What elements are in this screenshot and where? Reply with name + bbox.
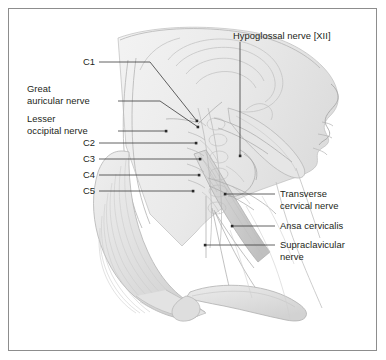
leader-great-auricular (118, 101, 198, 127)
label-lesser-occipital-nerve: Lesser occipital nerve (27, 113, 119, 136)
label-c5: C5 (44, 185, 95, 197)
anatomical-figure: Hypoglossal nerve [XII] C1 Great auricul… (0, 0, 386, 360)
label-supraclavicular-nerve: Supraclavicular nerve (280, 239, 380, 262)
label-hypoglossal-nerve: Hypoglossal nerve [XII] (233, 30, 331, 42)
label-transverse-cervical-nerve: Transverse cervical nerve (280, 188, 380, 211)
leader-endpoint-dots (165, 120, 242, 247)
label-c3: C3 (44, 153, 95, 165)
label-c2: C2 (44, 137, 95, 149)
label-c1: C1 (44, 56, 95, 68)
label-ansa-cervicalis: Ansa cervicalis (280, 220, 380, 232)
label-great-auricular-nerve: Great auricular nerve (27, 83, 119, 106)
label-c4: C4 (44, 169, 95, 181)
